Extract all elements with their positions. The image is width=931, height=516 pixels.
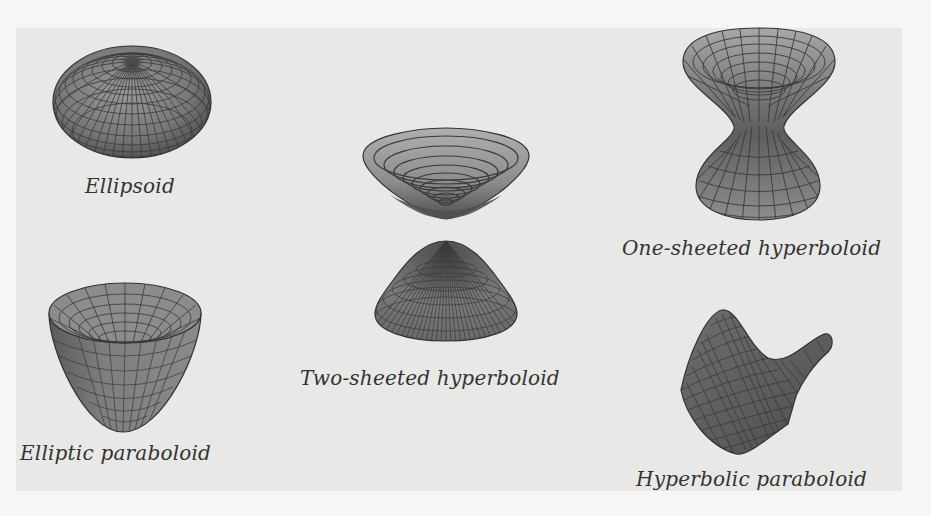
caption-one-sheeted-hyperboloid: One-sheeted hyperboloid <box>622 236 881 260</box>
two-sheeted-hyperboloid-upper-sheet <box>360 125 532 223</box>
hyperbolic-paraboloid-surface <box>678 306 838 458</box>
caption-two-sheeted-hyperboloid: Two-sheeted hyperboloid <box>300 366 560 390</box>
one-sheeted-hyperboloid-surface <box>680 26 838 222</box>
ellipsoid-surface <box>50 43 214 161</box>
caption-ellipsoid: Ellipsoid <box>85 174 175 198</box>
two-sheeted-hyperboloid-lower-sheet <box>373 239 519 343</box>
caption-elliptic-paraboloid: Elliptic paraboloid <box>20 441 211 465</box>
caption-hyperbolic-paraboloid: Hyperbolic paraboloid <box>636 467 867 491</box>
elliptic-paraboloid-surface <box>45 280 205 436</box>
